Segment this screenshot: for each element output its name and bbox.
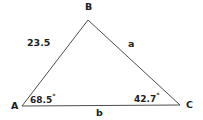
angle-c-value: 42.7 bbox=[134, 94, 156, 104]
degree-symbol-a: ° bbox=[52, 93, 56, 101]
angle-label-c: 42.7° bbox=[134, 93, 160, 104]
triangle-figure: A B C 23.5 a b 68.5° 42.7° bbox=[0, 0, 203, 120]
side-label-ab: 23.5 bbox=[27, 38, 50, 48]
side-label-ac: b bbox=[96, 108, 103, 118]
angle-a-value: 68.5 bbox=[30, 95, 52, 105]
vertex-label-b: B bbox=[85, 2, 92, 12]
angle-label-a: 68.5° bbox=[30, 94, 56, 105]
degree-symbol-c: ° bbox=[156, 92, 160, 100]
vertex-label-a: A bbox=[11, 101, 18, 111]
vertex-label-c: C bbox=[186, 100, 193, 110]
side-label-bc: a bbox=[128, 39, 134, 49]
